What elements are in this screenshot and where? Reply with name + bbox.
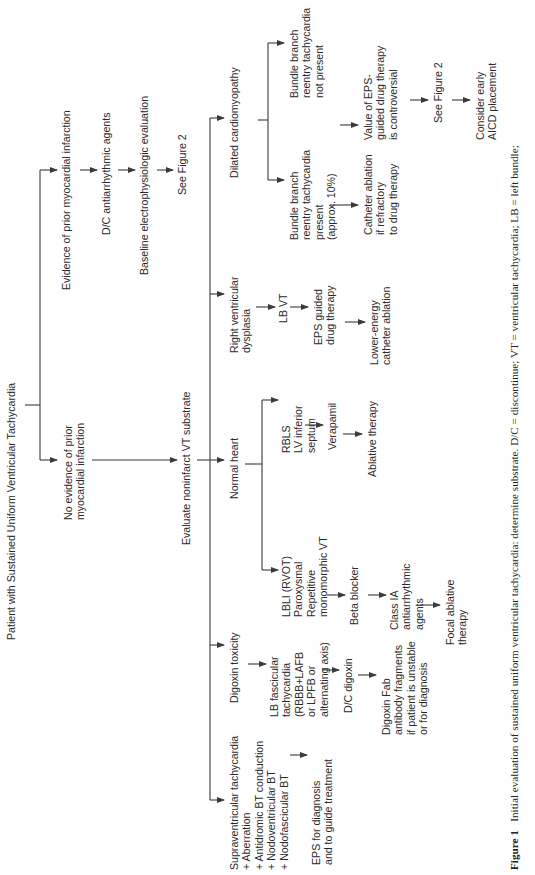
node-focal-ablative: Focal ablative therapy bbox=[444, 580, 469, 645]
node-eps-guided-drug: EPS guided drug therapy bbox=[312, 286, 337, 345]
node-prior-mi: Evidence of prior myocardial infarction bbox=[60, 110, 72, 290]
node-rv-dysplasia: Right ventricular dysplasia bbox=[228, 276, 253, 353]
node-svt: Supraventricular tachycardia + Aberratio… bbox=[228, 736, 290, 870]
node-dc-antiarrhythmic: D/C antiarrhythmic agents bbox=[100, 113, 112, 235]
node-no-prior-mi: No evidence of prior myocardial infarcti… bbox=[62, 423, 87, 520]
node-lower-energy-ablation: Lower-energy catheter ablation bbox=[368, 287, 393, 365]
node-consider-aicd: Consider early AICD placement bbox=[474, 63, 499, 140]
node-see-figure-2-a: See Figure 2 bbox=[176, 134, 188, 195]
node-dilated-cardiomyopathy: Dilated cardiomyopathy bbox=[228, 67, 240, 178]
node-dc-digoxin: D/C digoxin bbox=[342, 658, 354, 713]
node-see-figure-2-b: See Figure 2 bbox=[432, 62, 444, 123]
node-eps-controversial: Value of EPS- guided drug therapy is con… bbox=[362, 46, 399, 140]
root-node-title: Patient with Sustained Uniform Ventricul… bbox=[5, 383, 17, 640]
node-beta-blocker: Beta blocker bbox=[348, 566, 360, 625]
node-bbr-not-present: Bundle branch reentry tachycardia not pr… bbox=[288, 8, 325, 98]
node-verapamil: Verapamil bbox=[326, 403, 338, 450]
node-baseline-eps: Baseline electrophysiologic evaluation bbox=[138, 96, 150, 275]
node-digoxin-toxicity: Digoxin toxicity bbox=[228, 632, 240, 703]
node-lb-vt: LB VT bbox=[277, 294, 289, 323]
node-lb-fascicular: LB fascicular tachycardia (RBBB+LAFB or … bbox=[268, 642, 330, 717]
node-evaluate-substrate: Evaluate noninfarct VT substrate bbox=[180, 391, 192, 545]
caption-label: Figure 1 bbox=[508, 830, 520, 870]
node-class-ia: Class IA antiarrhythmic agents bbox=[388, 563, 425, 630]
node-lbli-rvot: LBLI (RVOT) Paroxysmal Repetitive monomo… bbox=[280, 536, 330, 617]
node-normal-heart: Normal heart bbox=[228, 438, 240, 499]
caption-text: Initial evaluation of sustained uniform … bbox=[508, 145, 520, 822]
node-rbls: RBLS LV inferior septum bbox=[280, 406, 317, 454]
node-catheter-ablation-refractory: Catheter ablation if refractory to drug … bbox=[362, 154, 399, 235]
node-bbr-present: Bundle branch reentry tachycardia presen… bbox=[288, 150, 338, 240]
flowchart-figure: Patient with Sustained Uniform Ventricul… bbox=[0, 0, 535, 875]
node-digoxin-fab: Digoxin Fab antibody fragments if patien… bbox=[380, 641, 430, 735]
node-ablative-therapy: Ablative therapy bbox=[366, 401, 378, 477]
figure-caption: Figure 1 Initial evaluation of sustained… bbox=[508, 145, 521, 870]
node-eps-diagnosis: EPS for diagnosis and to guide treatment bbox=[310, 759, 335, 865]
